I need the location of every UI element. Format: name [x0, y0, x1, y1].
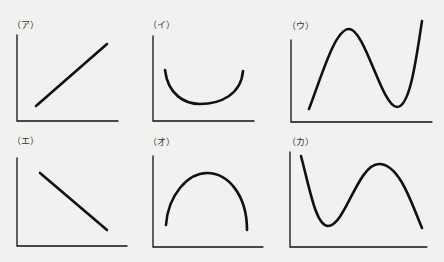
graph-a	[17, 35, 118, 121]
graph-ka	[290, 152, 427, 247]
graphs-diagram	[0, 0, 444, 262]
curve-ka	[301, 156, 422, 228]
graph-i	[153, 36, 254, 121]
axes-o	[153, 156, 263, 247]
curve-i	[165, 70, 243, 104]
axes-e	[17, 158, 127, 246]
graph-e	[17, 158, 127, 246]
graph-o	[153, 156, 263, 247]
curve-e	[40, 173, 107, 230]
axes-ka	[290, 152, 427, 247]
curve-a	[36, 44, 107, 106]
curve-u	[309, 21, 422, 109]
graph-u	[291, 21, 432, 122]
curve-o	[166, 173, 247, 230]
axes-i	[153, 36, 254, 121]
